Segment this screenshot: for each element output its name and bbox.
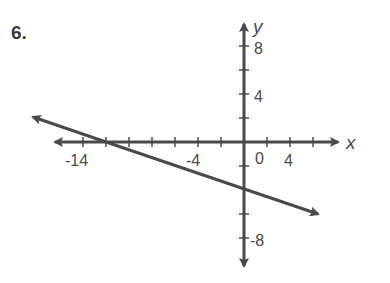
x-tick-label: 0 — [255, 150, 264, 167]
x-tick-label: -4 — [186, 152, 200, 169]
coordinate-plane: x y -14 -4 0 4 8 4 -8 — [0, 0, 390, 283]
x-axis-label: x — [345, 132, 357, 153]
y-axis-label: y — [251, 16, 264, 37]
y-tick-label: -8 — [250, 232, 264, 249]
plotted-line — [33, 117, 106, 142]
x-tick-label: -14 — [65, 152, 88, 169]
x-tick-label: 4 — [284, 152, 293, 169]
y-tick-label: 4 — [254, 88, 263, 105]
y-axis — [239, 24, 249, 266]
y-tick-label: 8 — [254, 40, 263, 57]
